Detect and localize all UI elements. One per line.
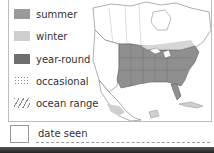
bottom-border [0,147,214,153]
summer-swatch-icon [14,9,30,19]
legend-label: ocean range [36,98,99,109]
legend-item-ocean-range: ocean range [14,96,99,110]
ocean-range-hatch-icon [14,98,30,108]
occasional-dots-icon [14,76,30,86]
legend-label: summer [36,9,77,20]
year-round-swatch-icon [14,54,30,64]
north-america-range-map [91,0,212,121]
date-seen-label: date seen [38,128,88,139]
date-seen-checkbox[interactable] [10,125,29,143]
legend-item-summer: summer [14,7,77,21]
legend-label: year-round [36,54,90,65]
winter-swatch-icon [14,31,30,41]
range-map-panel: summer winter year-round occasional ocea… [8,0,212,122]
legend-item-year-round: year-round [14,52,90,66]
legend-item-occasional: occasional [14,74,89,88]
legend-label: winter [36,31,67,42]
legend-label: occasional [36,76,89,87]
legend-item-winter: winter [14,29,67,43]
date-seen-input-line[interactable] [36,142,210,143]
